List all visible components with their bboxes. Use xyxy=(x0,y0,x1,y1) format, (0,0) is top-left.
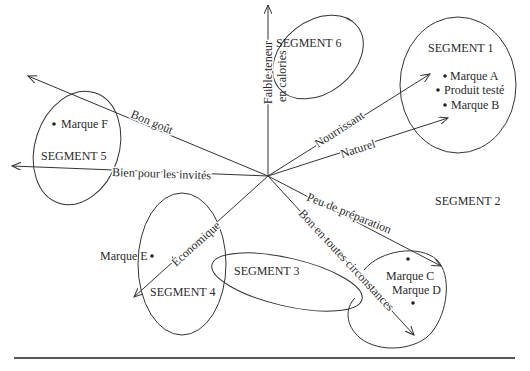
segment-1-label: SEGMENT 1 xyxy=(428,41,493,55)
segment-4-label: SEGMENT 4 xyxy=(150,285,215,299)
marque-e-dot xyxy=(150,254,154,258)
label-invites: Bien pour les invités xyxy=(112,165,212,182)
segment-3-label: SEGMENT 3 xyxy=(234,264,299,278)
marque-a-label: Marque A xyxy=(450,69,499,83)
marque-c-label: Marque C xyxy=(386,269,434,283)
marque-b-label: Marque B xyxy=(451,98,499,112)
label-naturel: Naturel xyxy=(339,136,378,161)
marque-e-label: Marque E xyxy=(100,249,148,263)
perceptual-map: Faible teneur en calories Nourrissant Na… xyxy=(0,0,530,371)
produit-teste-label: Produit testé xyxy=(444,83,504,97)
marque-a-dot xyxy=(443,74,447,78)
marque-d-label: Marque D xyxy=(392,283,441,297)
segment-6-label: SEGMENT 6 xyxy=(276,36,341,50)
produit-teste-dot xyxy=(436,88,440,92)
marque-f-label: Marque F xyxy=(61,117,108,131)
marque-c-dot xyxy=(406,257,410,261)
label-economique: Économique xyxy=(169,218,223,269)
segment-5-label: SEGMENT 5 xyxy=(41,149,106,163)
marque-b-dot xyxy=(443,103,447,107)
segment-2-label: SEGMENT 2 xyxy=(435,194,500,208)
segment-2-blob xyxy=(348,251,446,348)
label-faible-teneur-1: Faible teneur xyxy=(261,41,275,104)
marque-f-dot xyxy=(52,122,56,126)
marque-d-dot xyxy=(411,301,415,305)
label-faible-teneur-2: en calories xyxy=(275,50,289,102)
segment-5-ellipse xyxy=(19,80,135,216)
label-bon-gout: Bon goût xyxy=(129,107,176,137)
